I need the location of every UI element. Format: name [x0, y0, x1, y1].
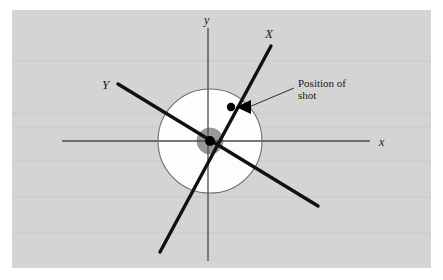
figure-root: x y X Y Position of shot — [0, 0, 443, 280]
y-axis-label: y — [203, 13, 210, 27]
callout-label-line2: shot — [298, 89, 316, 101]
principal-axis-X-label: X — [264, 26, 274, 41]
shot-position-marker — [227, 103, 235, 111]
callout-label-line1: Position of — [298, 77, 346, 89]
x-axis-label: x — [378, 135, 385, 149]
target-center-dot — [205, 136, 215, 146]
target-shot-diagram: x y X Y Position of shot — [0, 0, 443, 280]
